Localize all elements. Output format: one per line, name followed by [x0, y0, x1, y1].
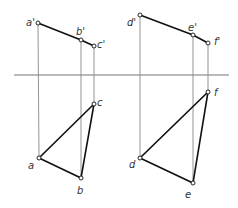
triangle-def-top-view: [140, 92, 208, 183]
point-a: [37, 156, 41, 160]
point-d: [138, 156, 142, 160]
label-b-prime: b': [76, 26, 85, 37]
diagram-svg: a'b'c'abcd'e'f'def: [0, 0, 238, 208]
projector-line: [38, 23, 39, 158]
label-d: d: [129, 159, 136, 170]
point-d-prime: [138, 13, 142, 17]
triangle-def-front-view: [140, 15, 208, 43]
projection-diagram: a'b'c'abcd'e'f'def: [0, 0, 238, 208]
label-f: f: [214, 87, 219, 98]
label-e: e: [185, 189, 191, 200]
label-b: b: [77, 185, 83, 196]
label-d-prime: d': [127, 17, 136, 28]
point-c: [92, 102, 96, 106]
label-c-prime: c': [97, 39, 105, 50]
point-b: [79, 176, 83, 180]
triangle-abc-front-view: [38, 23, 94, 46]
label-c: c: [97, 97, 103, 108]
point-a-prime: [36, 21, 40, 25]
label-a-prime: a': [26, 17, 35, 28]
label-a: a: [28, 160, 34, 171]
triangle-abc-top-view: [39, 104, 94, 178]
point-f-prime: [206, 41, 210, 45]
point-b-prime: [79, 38, 83, 42]
point-f: [206, 90, 210, 94]
label-e-prime: e': [188, 22, 197, 33]
point-e-prime: [191, 33, 195, 37]
label-f-prime: f': [214, 36, 220, 47]
point-c-prime: [92, 44, 96, 48]
point-e: [191, 181, 195, 185]
